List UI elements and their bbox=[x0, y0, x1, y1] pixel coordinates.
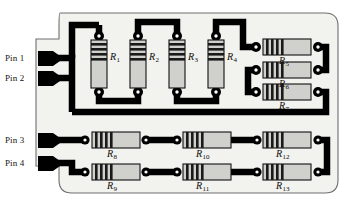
pin-label-pin-1: Pin 1 bbox=[5, 54, 24, 63]
pad-r11-left bbox=[172, 167, 181, 176]
resistor-label-R7-index: 7 bbox=[285, 105, 289, 113]
circuit-board-diagram bbox=[0, 0, 353, 205]
resistor-label-R2-index: 2 bbox=[155, 56, 159, 64]
resistor-R5 bbox=[263, 39, 311, 55]
resistor-label-R8: R8 bbox=[107, 149, 117, 159]
resistor-R9 bbox=[92, 164, 140, 180]
resistor-label-R6-index: 6 bbox=[285, 83, 289, 91]
resistor-R8 bbox=[92, 132, 140, 148]
pad-r7-left bbox=[251, 87, 261, 97]
pad-r13-right bbox=[313, 167, 322, 176]
resistor-label-R10: R10 bbox=[196, 149, 209, 159]
pin-label-pin-4: Pin 4 bbox=[5, 159, 24, 168]
resistor-label-R12: R12 bbox=[276, 149, 289, 159]
resistor-label-R5: R5 bbox=[279, 56, 289, 66]
resistor-label-R11-index: 11 bbox=[202, 185, 209, 193]
pad-r6-right bbox=[313, 65, 323, 75]
circuit-board-figure: Pin 1 Pin 2 Pin 3 Pin 4 R1 R2 R3 R4 R5 R… bbox=[0, 0, 353, 205]
resistor-label-R13: R13 bbox=[276, 181, 289, 191]
resistor-R1 bbox=[91, 40, 107, 88]
pad-r12-left bbox=[252, 135, 261, 144]
pad-r8-left bbox=[80, 135, 89, 144]
pad-r6-left bbox=[251, 65, 261, 75]
resistor-label-R2: R2 bbox=[149, 52, 159, 62]
pad-r9-right bbox=[141, 167, 150, 176]
resistor-R4 bbox=[208, 40, 224, 88]
resistor-R12 bbox=[263, 132, 311, 148]
resistor-label-R9-index: 9 bbox=[113, 185, 117, 193]
resistor-R10 bbox=[183, 132, 231, 148]
pad-r10-left bbox=[172, 135, 181, 144]
resistor-label-R12-index: 12 bbox=[282, 153, 289, 161]
pad-r9-left bbox=[80, 167, 89, 176]
resistor-label-R3-index: 3 bbox=[194, 56, 198, 64]
pad-r8-right bbox=[141, 135, 150, 144]
resistor-R13 bbox=[263, 164, 311, 180]
pin-label-pin-2: Pin 2 bbox=[5, 74, 24, 83]
resistor-R11 bbox=[183, 164, 231, 180]
resistor-label-R11: R11 bbox=[196, 181, 209, 191]
resistor-label-R8-index: 8 bbox=[113, 153, 117, 161]
resistor-label-R10-index: 10 bbox=[202, 153, 209, 161]
resistor-label-R3: R3 bbox=[188, 52, 198, 62]
resistor-label-R4-index: 4 bbox=[233, 56, 237, 64]
resistor-label-R13-index: 13 bbox=[282, 185, 289, 193]
resistor-R3 bbox=[169, 40, 185, 88]
resistor-label-R1-index: 1 bbox=[116, 56, 120, 64]
pad-r12-right bbox=[313, 135, 322, 144]
resistor-label-R6: R6 bbox=[279, 79, 289, 89]
resistor-label-R5-index: 5 bbox=[285, 60, 289, 68]
resistor-R2 bbox=[130, 40, 146, 88]
resistor-label-R9: R9 bbox=[107, 181, 117, 191]
resistor-label-R4: R4 bbox=[227, 52, 237, 62]
pin-label-pin-3: Pin 3 bbox=[5, 136, 24, 145]
resistor-label-R7: R7 bbox=[279, 101, 289, 111]
pad-r7-right bbox=[313, 87, 323, 97]
pad-r13-left bbox=[252, 167, 261, 176]
resistor-label-R1: R1 bbox=[110, 52, 120, 62]
pad-r5-left bbox=[251, 42, 261, 52]
pad-r5-right bbox=[313, 42, 323, 52]
